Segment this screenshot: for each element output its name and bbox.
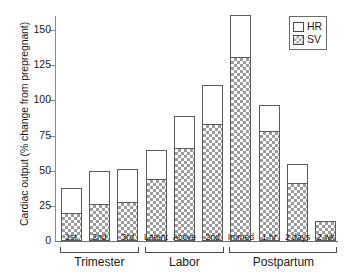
- bar-segment-hr[interactable]: [61, 188, 82, 214]
- cardiac-output-chart: Cardiac output (% change from prepregnan…: [0, 0, 344, 277]
- legend-swatch-hr-icon: [293, 22, 304, 32]
- bar-segment-hr[interactable]: [202, 85, 223, 125]
- bar-stack[interactable]: [259, 105, 280, 241]
- bar-segment-sv[interactable]: [174, 148, 195, 241]
- bar-stack[interactable]: [174, 116, 195, 241]
- bar-stack[interactable]: [230, 15, 251, 241]
- bar-stack[interactable]: [89, 171, 110, 241]
- legend-entry: SV: [293, 33, 322, 46]
- bar-segment-hr[interactable]: [287, 164, 308, 185]
- bar-segment-hr[interactable]: [174, 116, 195, 149]
- bar-segment-sv[interactable]: [202, 124, 223, 241]
- bar-segment-sv[interactable]: [259, 131, 280, 241]
- bar-stack[interactable]: [146, 150, 167, 241]
- group-label: Postpartum: [229, 255, 337, 269]
- y-axis-line: [55, 16, 56, 242]
- group-bracket: [145, 247, 225, 253]
- bar-stack[interactable]: [287, 164, 308, 241]
- legend-entry: HR: [293, 20, 322, 33]
- y-tick-label: 25: [39, 199, 51, 211]
- y-tick-label: 150: [33, 23, 51, 35]
- bar-segment-hr[interactable]: [146, 150, 167, 181]
- legend-swatch-sv-icon: [293, 35, 304, 45]
- group-label: Labor: [145, 255, 225, 269]
- bar-segment-sv[interactable]: [230, 57, 251, 241]
- bar-segment-hr[interactable]: [259, 105, 280, 133]
- y-tick-label: 100: [33, 93, 51, 105]
- legend-label: SV: [307, 34, 321, 45]
- bar-stack[interactable]: [202, 85, 223, 241]
- chart-legend: HRSV: [289, 16, 327, 50]
- bar-segment-hr[interactable]: [117, 169, 138, 202]
- group-bracket: [229, 247, 337, 253]
- bar-stack[interactable]: [117, 169, 138, 241]
- group-bracket: [60, 247, 140, 253]
- legend-label: HR: [307, 21, 322, 32]
- y-axis-title: Cardiac output (% change from prepregnan…: [18, 4, 30, 244]
- group-label: Trimester: [60, 255, 140, 269]
- y-tick-label: 125: [33, 58, 51, 70]
- bar-segment-hr[interactable]: [230, 15, 251, 58]
- bar-segment-hr[interactable]: [89, 171, 110, 206]
- x-tick-label: 2 wk: [296, 232, 344, 242]
- y-tick-label: 50: [39, 164, 51, 176]
- y-tick-label: 75: [39, 129, 51, 141]
